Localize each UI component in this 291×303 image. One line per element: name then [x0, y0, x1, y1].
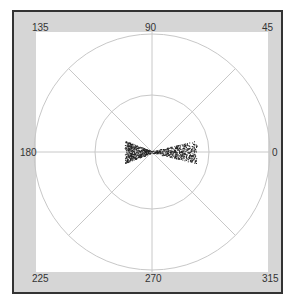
angle-label-0: 0	[272, 148, 278, 158]
angle-label-315: 315	[262, 274, 279, 284]
polar-plot	[0, 0, 291, 303]
angle-label-180: 180	[20, 148, 37, 158]
angle-label-135: 135	[32, 23, 49, 33]
angle-label-270: 270	[145, 274, 162, 284]
angle-label-225: 225	[32, 274, 49, 284]
angle-label-45: 45	[262, 23, 273, 33]
angle-label-90: 90	[145, 23, 156, 33]
